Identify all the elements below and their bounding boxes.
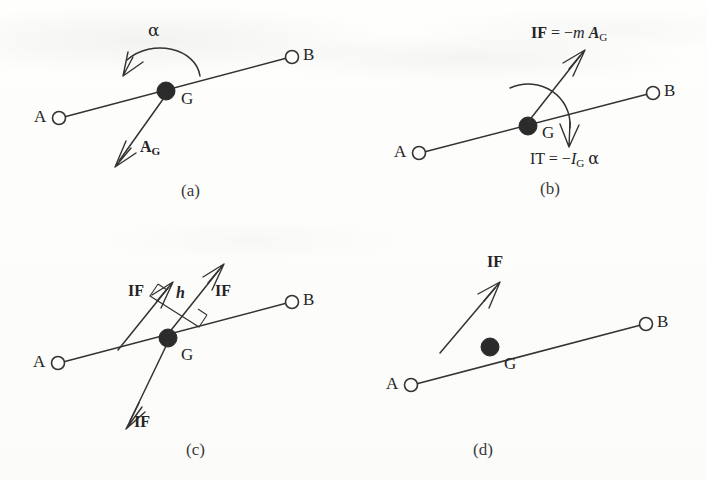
panel-b-caption: (b) — [540, 180, 560, 197]
panel-d-caption: (d) — [473, 441, 493, 458]
panel-a-label-b: B — [303, 46, 314, 63]
panel-c-label-g: G — [181, 346, 193, 363]
it-lhs: IT — [530, 150, 545, 167]
panel-b-label-b: B — [664, 82, 675, 99]
it-sign: − — [562, 150, 571, 167]
panel-d-label-b: B — [657, 313, 668, 330]
panel-a-label-g: G — [181, 90, 193, 107]
panel-b-inertia-force-equation: IF = −m AG — [531, 25, 607, 41]
panel-a-caption: (a) — [181, 182, 200, 199]
point-a-marker — [413, 147, 426, 160]
panel-c-caption: (c) — [186, 441, 205, 458]
point-a-marker — [52, 357, 65, 370]
panel-c-label-offset-h: h — [176, 285, 185, 301]
it-inertia-subscript: G — [576, 157, 584, 169]
panel-b-label-a: A — [394, 143, 406, 160]
accel-symbol: A — [140, 138, 152, 155]
panel-c-graphics — [52, 264, 299, 429]
diagram-vector-layer — [0, 0, 707, 480]
panel-d-label-g: G — [504, 355, 516, 372]
if-equals: = — [551, 24, 560, 41]
if-accel: A — [589, 24, 600, 41]
panel-d-graphics — [405, 282, 653, 392]
panel-b-label-g: G — [542, 124, 554, 141]
point-a-marker — [405, 379, 418, 392]
panel-c-label-a: A — [33, 353, 45, 370]
point-b-marker — [286, 51, 299, 64]
panel-b-graphics — [413, 50, 660, 160]
point-b-marker — [286, 296, 299, 309]
point-g-marker — [481, 338, 499, 356]
point-g-marker — [519, 117, 537, 135]
offset-distance-connector — [150, 296, 199, 327]
panel-c-label-if-right: IF — [215, 283, 231, 299]
panel-a-label-a: A — [34, 108, 46, 125]
panel-b-inertia-torque-equation: IT = −IG α — [530, 151, 599, 167]
panel-c-label-if-left: IF — [128, 283, 144, 299]
point-g-marker — [159, 329, 177, 347]
inertia-force-vector-arrowhead — [563, 50, 585, 76]
panel-d-label-if: IF — [487, 254, 503, 270]
panel-a-graphics — [53, 48, 299, 167]
figure-root: A B G α AG (a) A B G IF = −m AG IT = −IG… — [0, 0, 707, 480]
inertia-torque-arrowhead — [560, 122, 579, 147]
accel-subscript: G — [152, 145, 161, 157]
panel-a-label-alpha: α — [148, 22, 159, 39]
panel-c-label-if-down: IF — [134, 414, 150, 430]
link-ab-line — [416, 325, 641, 384]
if-lhs: IF — [531, 24, 547, 41]
panel-c-label-b: B — [303, 291, 314, 308]
acceleration-vector-arrowhead — [115, 141, 136, 167]
it-alpha: α — [588, 149, 599, 168]
panel-a-label-acceleration: AG — [140, 139, 160, 155]
if-sign: − — [564, 24, 573, 41]
if-accel-subscript: G — [599, 31, 607, 43]
point-g-marker — [157, 82, 175, 100]
point-b-marker — [647, 87, 660, 100]
link-ab-line — [64, 58, 287, 117]
alpha-arc — [127, 48, 200, 76]
point-a-marker — [53, 112, 66, 125]
if-mass: m — [573, 24, 585, 41]
panel-d-label-a: A — [386, 375, 398, 392]
point-b-marker — [640, 318, 653, 331]
it-equals: = — [549, 150, 558, 167]
